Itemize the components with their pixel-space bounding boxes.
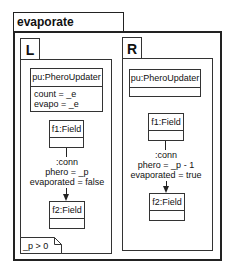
lhs-pheroupdater-attributes: count = _e evapo = _e bbox=[31, 87, 102, 111]
lhs-condition-note[interactable]: _p > 0 bbox=[20, 237, 62, 254]
lhs-label: L bbox=[26, 42, 35, 58]
rhs-conn-evaporated: evaporated = true bbox=[126, 170, 206, 180]
rhs-f1-field-object[interactable]: f1:Field bbox=[148, 113, 184, 141]
condition-text: _p > 0 bbox=[23, 241, 48, 251]
lhs-f1-field-object[interactable]: f1:Field bbox=[49, 120, 84, 148]
lhs-conn-evaporated: evaporated = false bbox=[28, 177, 106, 187]
rhs-conn-line-top bbox=[165, 141, 166, 150]
lhs-conn-phero: phero = _p bbox=[28, 167, 106, 177]
rhs-conn-phero: phero = _p - 1 bbox=[126, 160, 206, 170]
rhs-pheroupdater-header: pu:PheroUpdater bbox=[130, 70, 200, 88]
rhs-f2-header: f2:Field bbox=[150, 194, 184, 211]
lhs-f2-header: f2:Field bbox=[50, 202, 84, 219]
lhs-conn-name: :conn bbox=[28, 157, 106, 167]
lhs-tab: L bbox=[20, 38, 40, 60]
lhs-pheroupdater-header: pu:PheroUpdater bbox=[31, 69, 102, 87]
lhs-pheroupdater-object[interactable]: pu:PheroUpdater count = _e evapo = _e bbox=[30, 68, 103, 112]
rule-name: evaporate bbox=[17, 15, 74, 29]
lhs-arrowhead-icon bbox=[63, 194, 69, 201]
lhs-f2-field-object[interactable]: f2:Field bbox=[49, 201, 85, 229]
attr-evapo: evapo = _e bbox=[34, 99, 99, 109]
rhs-f1-header: f1:Field bbox=[149, 114, 183, 131]
rhs-arrowhead-icon bbox=[163, 186, 169, 193]
attr-count: count = _e bbox=[34, 89, 99, 99]
lhs-conn-label: :conn phero = _p evaporated = false bbox=[28, 157, 106, 187]
rhs-conn-label: :conn phero = _p - 1 evaporated = true bbox=[126, 150, 206, 180]
rhs-f2-field-object[interactable]: f2:Field bbox=[149, 193, 185, 221]
lhs-conn-line-top bbox=[66, 148, 67, 157]
rhs-tab: R bbox=[122, 37, 142, 59]
rhs-pheroupdater-object[interactable]: pu:PheroUpdater bbox=[129, 69, 201, 97]
lhs-f1-header: f1:Field bbox=[50, 121, 83, 138]
rhs-label: R bbox=[127, 41, 137, 57]
rhs-conn-name: :conn bbox=[126, 150, 206, 160]
rule-title-tab: evaporate bbox=[13, 12, 124, 32]
